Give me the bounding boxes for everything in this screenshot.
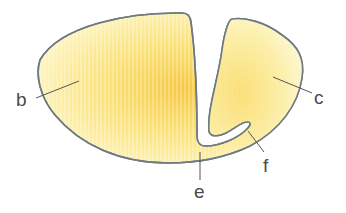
label-b: b (16, 89, 27, 110)
label-f: f (263, 155, 269, 176)
label-e: e (194, 181, 205, 202)
diagram-canvas: b c e f (0, 0, 346, 213)
organ-body (38, 13, 303, 163)
label-c: c (314, 87, 324, 108)
